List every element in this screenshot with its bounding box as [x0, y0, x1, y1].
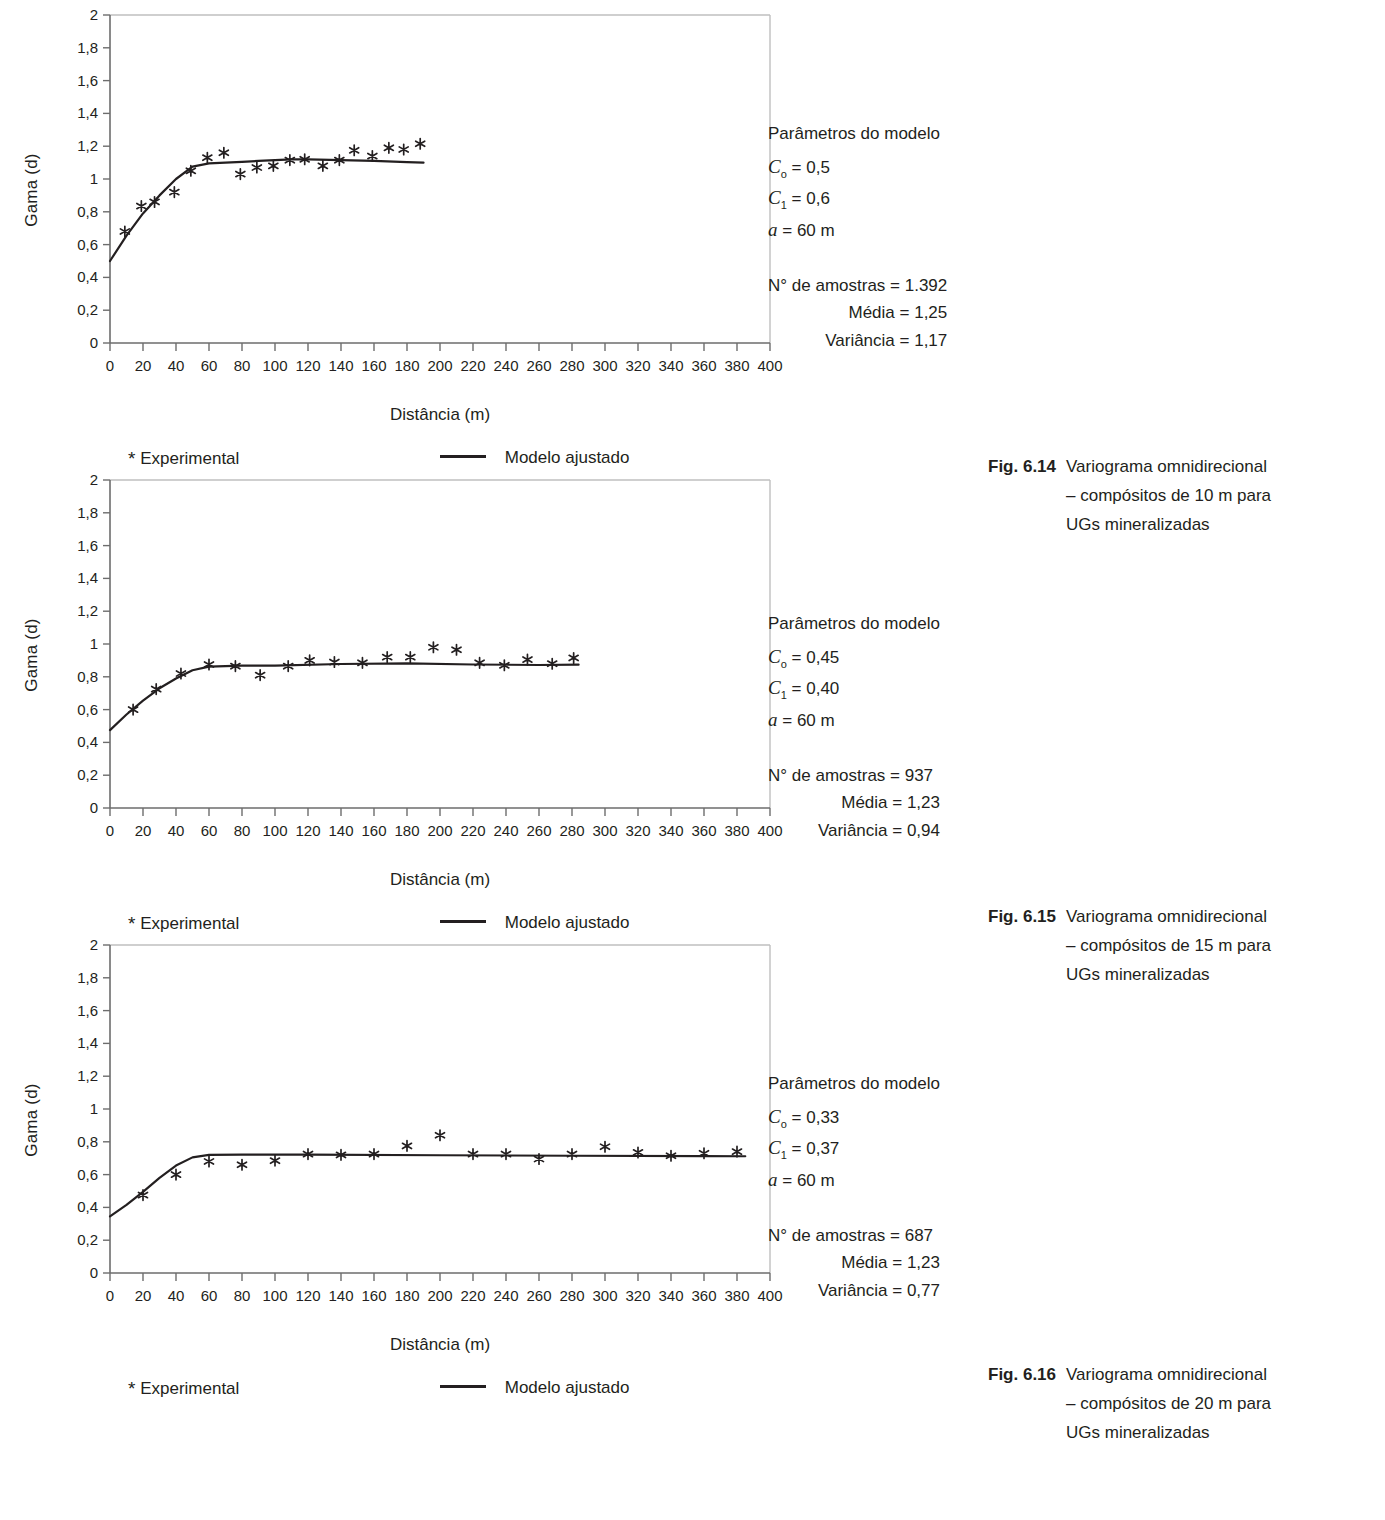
y-tick-label: 0,4	[77, 733, 98, 750]
x-tick-label: 240	[493, 357, 518, 374]
experimental-point	[172, 1169, 181, 1179]
y-tick-label: 0,8	[77, 1133, 98, 1150]
experimental-point	[238, 1160, 247, 1170]
experimental-point	[406, 652, 415, 662]
model-parameters-6-16: Parâmetros do modelo Co = 0,33 C1 = 0,37…	[768, 1070, 940, 1304]
caption-line-3: UGs mineralizadas	[1066, 1418, 1378, 1447]
caption-line-2: – compósitos de 20 m para	[1066, 1389, 1378, 1418]
x-tick-label: 300	[592, 822, 617, 839]
experimental-point	[452, 645, 461, 655]
stat-variance: Variância = 0,94	[768, 817, 940, 845]
x-tick-label: 60	[201, 822, 218, 839]
experimental-point	[475, 658, 484, 668]
y-tick-label: 0	[90, 1264, 98, 1281]
y-axis-label: Gama (d)	[22, 585, 42, 725]
y-tick-label: 2	[90, 936, 98, 953]
param-a-symbol: a	[768, 1169, 778, 1190]
experimental-point	[269, 161, 278, 171]
legend-model: Modelo ajustado	[440, 1378, 630, 1398]
param-c1: C1 = 0,37	[768, 1133, 940, 1165]
x-tick-label: 40	[168, 822, 185, 839]
experimental-point	[236, 169, 245, 179]
experimental-point	[429, 642, 438, 652]
stat-mean: Média = 1,23	[768, 1249, 940, 1277]
caption-number: Fig. 6.16	[988, 1360, 1056, 1389]
x-axis-label: Distância (m)	[110, 870, 770, 890]
stat-samples: N° de amostras = 937	[768, 762, 940, 790]
param-c1: C1 = 0,40	[768, 673, 940, 705]
y-tick-label: 0,8	[77, 668, 98, 685]
experimental-point	[383, 652, 392, 662]
x-tick-label: 60	[201, 1287, 218, 1304]
param-c1-value: = 0,6	[792, 189, 830, 208]
y-tick-label: 0,4	[77, 268, 98, 285]
parameters-title: Parâmetros do modelo	[768, 610, 940, 638]
x-tick-label: 140	[328, 822, 353, 839]
x-tick-label: 0	[106, 357, 114, 374]
legend-experimental-label: Experimental	[140, 1379, 239, 1398]
sample-stats-6-16: N° de amostras = 687 Média = 1,23 Variân…	[768, 1222, 940, 1305]
x-tick-label: 220	[460, 357, 485, 374]
experimental-point	[256, 670, 265, 680]
y-tick-label: 1,8	[77, 39, 98, 56]
x-tick-label: 80	[234, 357, 251, 374]
experimental-point	[330, 657, 339, 667]
model-parameters-6-14: Parâmetros do modelo Co = 0,5 C1 = 0,6 a…	[768, 120, 947, 354]
experimental-point	[548, 658, 557, 668]
parameters-title: Parâmetros do modelo	[768, 120, 947, 148]
model-fit-line	[110, 159, 424, 261]
x-tick-label: 180	[394, 357, 419, 374]
x-axis-label: Distância (m)	[110, 1335, 770, 1355]
experimental-point	[601, 1142, 610, 1152]
param-c0: Co = 0,5	[768, 152, 947, 184]
stat-mean: Média = 1,25	[768, 299, 947, 327]
x-tick-label: 180	[394, 1287, 419, 1304]
x-tick-label: 360	[691, 1287, 716, 1304]
x-tick-label: 0	[106, 822, 114, 839]
param-c0: Co = 0,33	[768, 1102, 940, 1134]
caption-line-1: Variograma omnidirecional	[1066, 1360, 1378, 1389]
y-tick-label: 1,8	[77, 969, 98, 986]
x-tick-label: 140	[328, 357, 353, 374]
stat-samples: N° de amostras = 687	[768, 1222, 940, 1250]
y-axis-label: Gama (d)	[22, 1050, 42, 1190]
experimental-point	[368, 151, 377, 161]
param-c0-value: = 0,33	[792, 1108, 840, 1127]
figure-caption-6-16: Fig. 6.16 Variograma omnidirecional – co…	[988, 1360, 1378, 1448]
param-a: a = 60 m	[768, 1165, 940, 1196]
y-tick-label: 1	[90, 635, 98, 652]
x-tick-label: 160	[361, 1287, 386, 1304]
chart-6-16-svg: 00,20,40,60,811,21,41,61,820204060801001…	[0, 930, 800, 1400]
experimental-point	[523, 654, 532, 664]
stat-variance: Variância = 1,17	[768, 327, 947, 355]
x-tick-label: 380	[724, 822, 749, 839]
y-tick-label: 2	[90, 6, 98, 23]
x-tick-label: 400	[757, 357, 782, 374]
experimental-point	[568, 1149, 577, 1159]
chart-6-14: 00,20,40,60,811,21,41,61,820204060801001…	[0, 0, 800, 470]
x-tick-label: 280	[559, 822, 584, 839]
param-c0-symbol: Co	[768, 1106, 787, 1127]
experimental-point	[384, 143, 393, 153]
y-tick-label: 0	[90, 799, 98, 816]
x-tick-label: 80	[234, 822, 251, 839]
experimental-point	[502, 1149, 511, 1159]
x-tick-label: 20	[135, 1287, 152, 1304]
x-tick-label: 240	[493, 822, 518, 839]
param-c0-symbol: Co	[768, 646, 787, 667]
y-tick-label: 1,6	[77, 72, 98, 89]
experimental-point	[569, 653, 578, 663]
param-c0-value: = 0,5	[792, 158, 830, 177]
chart-6-15-svg: 00,20,40,60,811,21,41,61,820204060801001…	[0, 465, 800, 935]
y-tick-label: 1,4	[77, 1034, 98, 1051]
y-tick-label: 0,6	[77, 1166, 98, 1183]
sample-stats-6-14: N° de amostras = 1.392 Média = 1,25 Vari…	[768, 272, 947, 355]
y-tick-label: 1,2	[77, 602, 98, 619]
stat-samples: N° de amostras = 1.392	[768, 272, 947, 300]
x-axis-label: Distância (m)	[110, 405, 770, 425]
x-tick-label: 160	[361, 357, 386, 374]
x-tick-label: 200	[427, 357, 452, 374]
stat-mean: Média = 1,23	[768, 789, 940, 817]
experimental-point	[399, 144, 408, 154]
x-tick-label: 120	[295, 822, 320, 839]
